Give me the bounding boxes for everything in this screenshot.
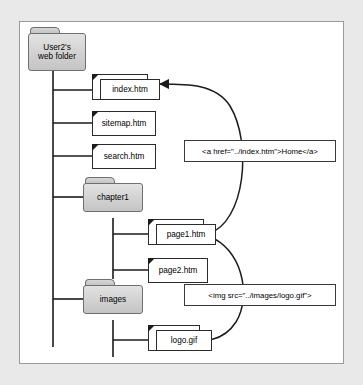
page-fold-icon	[92, 74, 99, 81]
images-folder-label: images	[100, 295, 126, 304]
file-front-sheet: sitemap.htm	[92, 111, 156, 136]
img-tag-code: <img src="../images/logo.gif">	[208, 291, 311, 300]
chapter1-folder-label: chapter1	[97, 193, 129, 202]
root-folder-label-line1: User2's	[43, 43, 71, 52]
root-folder-label: User2's web folder	[38, 43, 76, 61]
file-index-htm[interactable]: index.htm	[92, 74, 160, 104]
images-folder[interactable]: images	[83, 279, 143, 320]
file-label: sitemap.htm	[102, 119, 147, 128]
file-label: page1.htm	[167, 230, 206, 239]
page-fold-icon	[148, 325, 155, 332]
file-front-sheet: page1.htm	[156, 224, 216, 245]
file-front-sheet: logo.gif	[156, 330, 212, 351]
images-folder-body: images	[83, 285, 143, 314]
file-page2-htm[interactable]: page2.htm	[148, 258, 208, 284]
file-front-sheet: page2.htm	[148, 258, 208, 283]
file-sitemap-htm[interactable]: sitemap.htm	[92, 111, 156, 137]
chapter1-folder[interactable]: chapter1	[83, 177, 143, 218]
file-logo-gif[interactable]: logo.gif	[148, 325, 212, 355]
page-fold-icon	[148, 258, 155, 265]
anchor-tag-code: <a href="../index.htm">Home</a>	[202, 147, 318, 156]
connector-lines	[20, 22, 345, 365]
file-front-sheet: search.htm	[92, 144, 156, 169]
root-folder-label-line2: web folder	[38, 52, 76, 61]
file-search-htm[interactable]: search.htm	[92, 144, 156, 170]
file-front-sheet: index.htm	[100, 79, 160, 100]
root-folder-body: User2's web folder	[28, 33, 86, 71]
file-label: page2.htm	[159, 266, 198, 275]
figure-panel: User2's web folder index.htm sitemap.htm…	[19, 21, 344, 364]
file-label: logo.gif	[171, 336, 197, 345]
file-label: search.htm	[104, 152, 145, 161]
anchor-tag-callout: <a href="../index.htm">Home</a>	[184, 140, 336, 162]
chapter1-folder-body: chapter1	[83, 183, 143, 212]
file-label: index.htm	[112, 85, 148, 94]
page-fold-icon	[92, 111, 99, 118]
page-fold-icon	[92, 144, 99, 151]
page-fold-icon	[148, 219, 155, 226]
file-page1-htm[interactable]: page1.htm	[148, 219, 216, 249]
img-tag-callout: <img src="../images/logo.gif">	[184, 284, 336, 306]
root-folder[interactable]: User2's web folder	[28, 27, 86, 71]
diagram-stage: User2's web folder index.htm sitemap.htm…	[20, 22, 345, 365]
